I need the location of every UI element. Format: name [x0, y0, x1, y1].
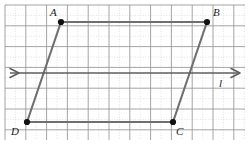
vertex-label-D: D	[11, 126, 19, 137]
vertex-dot-B	[204, 19, 210, 25]
figure-canvas	[0, 0, 249, 145]
line-l-label: l	[219, 78, 222, 89]
vertex-label-B: B	[213, 7, 220, 18]
vertex-dot-A	[58, 19, 64, 25]
vertex-label-A: A	[50, 7, 57, 18]
geometry-figure: A B C D l	[0, 0, 249, 145]
vertex-dot-D	[24, 119, 30, 125]
vertex-label-C: C	[176, 126, 183, 137]
